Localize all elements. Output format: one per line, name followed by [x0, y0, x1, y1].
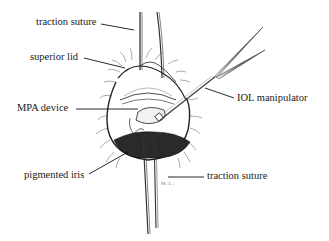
label-traction-suture-bottom: traction suture	[207, 171, 267, 182]
label-superior-lid: superior lid	[30, 52, 78, 63]
illustration-drawing	[0, 0, 329, 241]
iol-manipulator-drawing	[155, 27, 265, 121]
eye-surgery-illustration: traction suture superior lid MPA device …	[0, 0, 329, 241]
label-pigmented-iris: pigmented iris	[24, 170, 84, 181]
label-mpa-device: MPA device	[17, 103, 68, 114]
artist-signature: M.L.	[161, 181, 175, 186]
label-iol-manipulator: IOL manipulator	[237, 93, 307, 104]
label-traction-suture-top: traction suture	[36, 17, 96, 28]
